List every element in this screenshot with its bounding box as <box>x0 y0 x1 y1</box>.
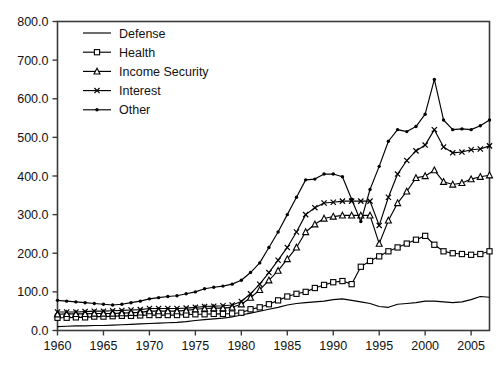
marker-square <box>202 312 207 317</box>
marker-dot <box>423 113 426 116</box>
marker-dot <box>488 118 491 121</box>
marker-dot <box>56 299 59 302</box>
marker-dot <box>286 213 289 216</box>
marker-triangle <box>330 213 336 219</box>
legend-item-interest[interactable]: Interest <box>83 84 161 98</box>
legend-item-other[interactable]: Other <box>83 103 150 117</box>
y-tick-label: 0.0 <box>31 324 48 338</box>
marker-square <box>358 264 363 269</box>
series-line <box>58 130 490 312</box>
x-tick-label: 1965 <box>90 339 118 353</box>
marker-square <box>478 251 483 256</box>
series-interest <box>55 127 492 315</box>
marker-square <box>367 258 372 263</box>
chart-container: 0.0100.0200.0300.0400.0500.0600.0700.080… <box>0 0 503 371</box>
y-tick-label: 700.0 <box>17 54 48 68</box>
marker-square <box>386 249 391 254</box>
marker-dot <box>120 303 123 306</box>
marker-triangle <box>385 217 391 223</box>
legend-item-defense[interactable]: Defense <box>83 27 166 41</box>
marker-dot <box>469 128 472 131</box>
legend-label: Defense <box>119 27 166 41</box>
series-income-security <box>55 167 493 317</box>
marker-x <box>395 171 400 176</box>
marker-square <box>487 249 492 254</box>
marker-square <box>266 302 271 307</box>
legend-item-income-security[interactable]: Income Security <box>83 65 209 79</box>
marker-triangle <box>468 176 474 182</box>
marker-dot <box>139 299 142 302</box>
series-line <box>58 170 490 314</box>
x-tick-label: 1960 <box>44 339 72 353</box>
marker-square <box>285 294 290 299</box>
marker-square <box>432 242 437 247</box>
marker-dot <box>451 128 454 131</box>
marker-square <box>441 249 446 254</box>
legend-label: Interest <box>119 84 161 98</box>
marker-dot <box>258 261 261 264</box>
marker-triangle <box>321 215 327 221</box>
marker-dot <box>414 125 417 128</box>
x-tick-label: 2000 <box>411 339 439 353</box>
legend-label: Other <box>119 103 150 117</box>
x-tick-label: 1970 <box>136 339 164 353</box>
legend-item-health[interactable]: Health <box>83 46 155 60</box>
marker-square <box>321 282 326 287</box>
marker-dot <box>249 271 252 274</box>
y-tick-label: 600.0 <box>17 92 48 106</box>
marker-dot <box>212 286 215 289</box>
marker-x <box>441 144 446 149</box>
marker-triangle <box>450 181 456 187</box>
marker-triangle <box>349 212 355 218</box>
marker-square <box>459 251 464 256</box>
marker-dot <box>460 127 463 130</box>
marker-dot <box>442 118 445 121</box>
marker-dot <box>396 128 399 131</box>
marker-dot <box>83 301 86 304</box>
marker-square <box>220 311 225 316</box>
marker-dot <box>322 172 325 175</box>
y-axis: 0.0100.0200.0300.0400.0500.0600.0700.080… <box>17 15 57 338</box>
marker-triangle <box>459 180 465 186</box>
marker-x <box>413 148 418 153</box>
marker-triangle <box>367 212 373 218</box>
marker-square <box>423 233 428 238</box>
x-tick-label: 1980 <box>227 339 255 353</box>
marker-dot <box>479 124 482 127</box>
y-tick-label: 800.0 <box>17 15 48 29</box>
marker-x <box>404 158 409 163</box>
legend-label: Income Security <box>119 65 209 79</box>
marker-dot <box>175 294 178 297</box>
marker-dot <box>221 284 224 287</box>
marker-dot <box>203 287 206 290</box>
marker-dot <box>111 303 114 306</box>
marker-dot <box>368 188 371 191</box>
marker-x <box>285 245 290 250</box>
marker-dot <box>304 178 307 181</box>
marker-triangle <box>487 172 493 178</box>
marker-square <box>257 305 262 310</box>
marker-dot <box>93 302 96 305</box>
y-tick-label: 100.0 <box>17 285 48 299</box>
marker-dot <box>350 197 353 200</box>
marker-dot <box>378 165 381 168</box>
marker-dot <box>102 303 105 306</box>
marker-dot <box>240 279 243 282</box>
marker-dot <box>194 290 197 293</box>
marker-dot <box>359 220 362 223</box>
marker-dot <box>157 296 160 299</box>
legend-label: Health <box>119 46 155 60</box>
marker-x <box>312 205 317 210</box>
marker-triangle <box>422 173 428 179</box>
marker-x <box>423 143 428 148</box>
marker-square <box>377 254 382 259</box>
marker-dot <box>95 108 98 111</box>
marker-square <box>294 291 299 296</box>
marker-dot <box>65 299 68 302</box>
marker-triangle <box>413 175 419 181</box>
marker-square <box>248 307 253 312</box>
marker-x <box>275 258 280 263</box>
marker-square <box>303 289 308 294</box>
marker-dot <box>267 246 270 249</box>
marker-square <box>275 298 280 303</box>
